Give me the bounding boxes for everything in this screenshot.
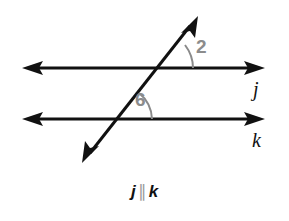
line-label-j: j (253, 79, 259, 99)
line-j-group (22, 61, 265, 75)
angle-2-arc (185, 45, 193, 68)
caption-left-variable: j (131, 182, 136, 201)
caption-right-variable: k (149, 182, 158, 201)
geometry-figure: 2 6 j k j∥k (0, 0, 289, 221)
angle-label-2: 2 (196, 37, 207, 56)
parallel-symbol-icon: ∥ (136, 182, 149, 201)
line-label-k: k (252, 130, 261, 150)
caption-parallel-statement: j∥k (0, 183, 289, 200)
line-k-group (22, 112, 265, 126)
angle-label-6: 6 (135, 90, 146, 109)
